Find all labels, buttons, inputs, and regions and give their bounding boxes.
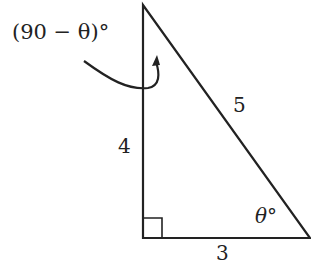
angle-label-top: (90 − θ)° [12, 22, 109, 43]
side-label-hypotenuse: 5 [233, 95, 246, 115]
curved-arrow-icon [84, 61, 158, 88]
triangle-diagram: (90 − θ)° θ° 4 3 5 [0, 0, 311, 263]
side-label-vertical: 4 [118, 136, 131, 156]
side-label-horizontal: 3 [216, 243, 229, 263]
arrowhead-icon [152, 55, 160, 66]
right-angle-marker [143, 218, 162, 238]
right-triangle [143, 5, 310, 238]
angle-label-bottom: θ° [255, 206, 277, 226]
